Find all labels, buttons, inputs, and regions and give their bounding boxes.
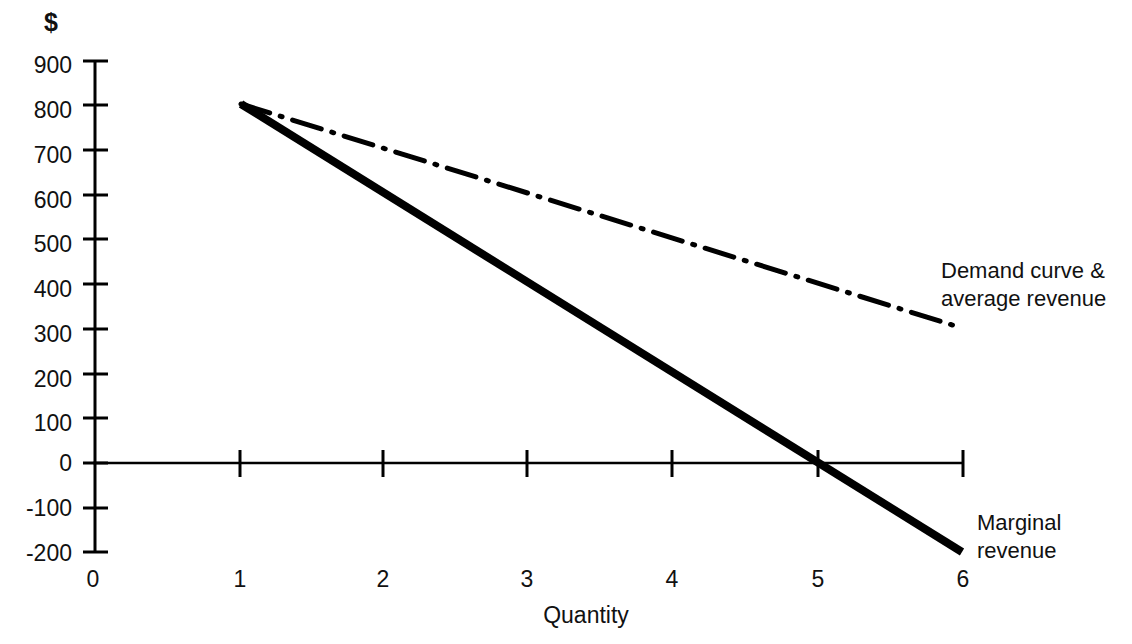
economics-revenue-chart: $ 900 800 700 600 500 400 300 200 100 0 … bbox=[0, 0, 1132, 644]
demand-curve-line bbox=[241, 104, 962, 328]
marginal-revenue-line bbox=[241, 104, 962, 552]
plot-area bbox=[0, 0, 1132, 644]
